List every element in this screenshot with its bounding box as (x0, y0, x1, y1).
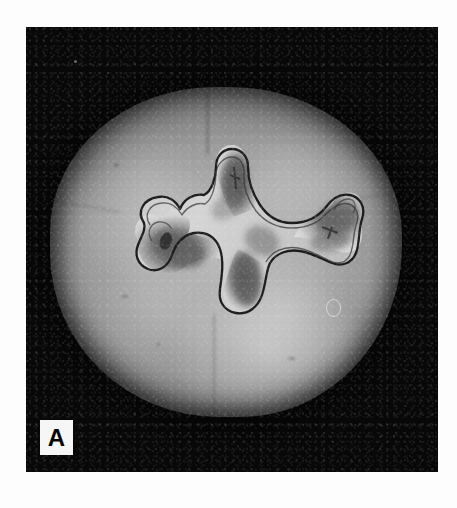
dust-speck (74, 60, 77, 63)
tooth-crown (50, 87, 402, 417)
figure-root: A (0, 0, 457, 508)
photo-plate: A (26, 27, 438, 472)
panel-label: A (40, 420, 73, 455)
panel-label-text: A (48, 426, 65, 450)
